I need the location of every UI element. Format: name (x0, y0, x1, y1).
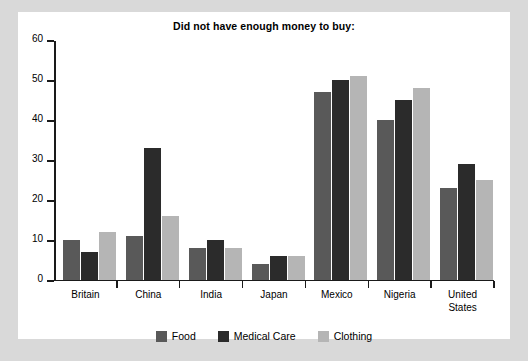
y-tick-label: 40 (32, 113, 43, 124)
bar-group (252, 41, 305, 280)
y-tick-label: 20 (32, 193, 43, 204)
x-tick (305, 281, 307, 288)
y-tick-label: 10 (32, 233, 43, 244)
bar-group (189, 41, 242, 280)
bar-group (126, 41, 179, 280)
bar (458, 164, 475, 280)
legend-label: Medical Care (234, 330, 296, 342)
y-tick: 10 (47, 240, 54, 242)
bar-group (440, 41, 493, 280)
x-tick (116, 281, 118, 288)
x-axis-label: Britain (54, 289, 117, 302)
bar (144, 148, 161, 280)
y-tick: 30 (47, 160, 54, 162)
x-axis-line (54, 280, 494, 282)
y-tick-label: 30 (32, 153, 43, 164)
x-tick (368, 281, 370, 288)
x-axis-label: United States (431, 289, 494, 314)
y-axis-line (54, 41, 56, 281)
bar-group (63, 41, 116, 280)
legend-item[interactable]: Clothing (318, 330, 373, 342)
legend-swatch-icon (318, 331, 329, 342)
y-tick: 40 (47, 120, 54, 122)
bar (332, 80, 349, 280)
plot-area: 0102030405060 (54, 41, 494, 281)
bar-group (314, 41, 367, 280)
y-tick-label: 60 (32, 33, 43, 44)
legend-swatch-icon (156, 331, 167, 342)
x-tick (430, 281, 432, 288)
x-axis-label: China (117, 289, 180, 302)
legend-label: Clothing (334, 330, 373, 342)
bar-group (377, 41, 430, 280)
bar (350, 76, 367, 280)
bar (413, 88, 430, 280)
bar (440, 188, 457, 280)
legend-label: Food (172, 330, 196, 342)
legend-swatch-icon (218, 331, 229, 342)
chart-figure: Did not have enough money to buy: 010203… (18, 12, 510, 339)
x-axis-label: India (180, 289, 243, 302)
y-tick: 0 (47, 280, 54, 282)
bar (314, 92, 331, 280)
x-axis-label: Japan (243, 289, 306, 302)
bar (225, 248, 242, 280)
bar (207, 240, 224, 280)
bar (270, 256, 287, 280)
x-axis-label: Nigeria (368, 289, 431, 302)
bar (476, 180, 493, 280)
y-tick: 60 (47, 40, 54, 42)
x-axis-label: Mexico (305, 289, 368, 302)
legend-item[interactable]: Food (156, 330, 196, 342)
x-tick (179, 281, 181, 288)
x-tick (242, 281, 244, 288)
chart-title: Did not have enough money to buy: (18, 20, 510, 32)
legend-item[interactable]: Medical Care (218, 330, 296, 342)
y-tick-label: 50 (32, 73, 43, 84)
bar (395, 100, 412, 280)
bar (99, 232, 116, 280)
y-tick-label: 0 (37, 273, 43, 284)
x-tick (493, 281, 495, 288)
bar (252, 264, 269, 280)
bar (189, 248, 206, 280)
bar (162, 216, 179, 280)
bar (81, 252, 98, 280)
y-tick: 50 (47, 80, 54, 82)
bar (288, 256, 305, 280)
bar (126, 236, 143, 280)
bar (377, 120, 394, 280)
y-tick: 20 (47, 200, 54, 202)
chart-legend: FoodMedical CareClothing (18, 330, 510, 342)
bar (63, 240, 80, 280)
